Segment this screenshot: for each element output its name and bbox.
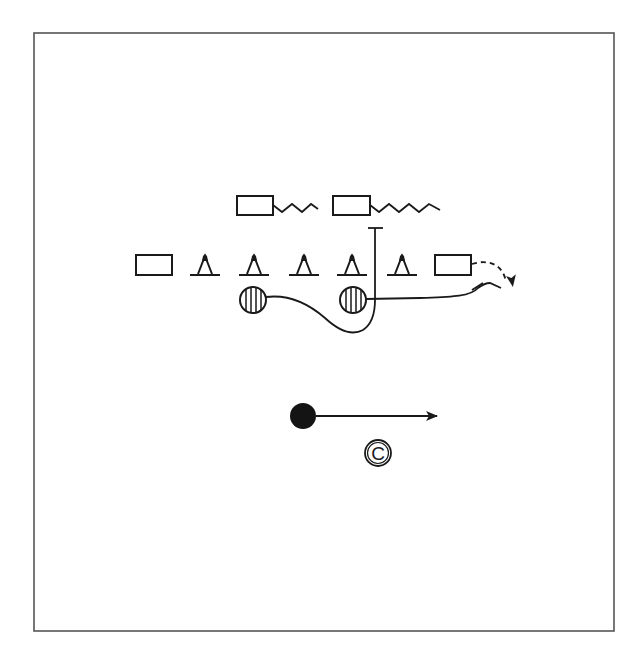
back-left: [240, 285, 266, 315]
zigzag-motion-icon: [370, 204, 440, 212]
coach-marker: C: [365, 440, 391, 466]
defender-top-2: [333, 196, 440, 215]
diagram-frame: [34, 33, 614, 631]
ball-motion: [290, 403, 437, 429]
defender-rectangle: [237, 196, 273, 215]
defender-top-1: [237, 196, 318, 215]
dashed-motion-arrow: [472, 262, 506, 282]
lineman-1: [190, 254, 220, 275]
lineman-5: [387, 254, 417, 275]
ball-icon: [290, 403, 316, 429]
back-left-route: [266, 297, 375, 333]
lineman-2: [239, 254, 269, 275]
play-diagram: C: [0, 0, 643, 669]
zigzag-motion-icon: [273, 204, 318, 212]
back-right: [340, 285, 366, 315]
lineman-4: [337, 254, 367, 275]
block-route-vertical: [368, 228, 383, 300]
lineman-3: [289, 254, 319, 275]
coach-marker-letter: C: [371, 443, 385, 464]
end-left-rectangle: [136, 255, 172, 275]
end-right-rectangle: [435, 255, 471, 275]
defender-rectangle: [333, 196, 370, 215]
